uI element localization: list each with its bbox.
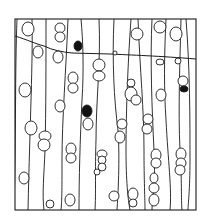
vessel-cell <box>115 131 125 143</box>
vessel-cell <box>22 22 34 36</box>
vessel-cells <box>0 21 188 208</box>
vessel-cell <box>68 83 78 93</box>
vessel-cell <box>178 76 188 86</box>
vessel-cell <box>143 114 153 124</box>
vessel-cell <box>129 199 137 207</box>
vessel-cell <box>25 121 37 135</box>
vessel-cell <box>109 191 119 201</box>
vessel-cell <box>151 158 161 168</box>
vessel-cell <box>156 89 166 101</box>
vessel-cell <box>149 183 159 193</box>
vessel-cell <box>83 118 93 130</box>
cell-wall-line <box>138 19 145 210</box>
vessel-cell <box>127 79 135 87</box>
vessel-cell <box>68 72 78 84</box>
vessel-cell <box>55 100 65 112</box>
vessel-cell <box>149 194 159 206</box>
vessel-cell <box>55 32 65 42</box>
vessel-cell <box>175 58 181 64</box>
filled-vessel-cell <box>74 41 82 51</box>
vessel-cell <box>19 83 31 97</box>
vessel-cell <box>154 21 166 33</box>
vessel-cell <box>142 124 152 134</box>
vessel-cell <box>93 59 105 71</box>
cell-wall-line <box>179 19 182 210</box>
vessel-cell <box>128 188 138 200</box>
vessel-cell <box>46 200 54 208</box>
vessel-cell <box>94 169 100 175</box>
vessel-cell <box>65 194 75 206</box>
vessel-cell <box>93 71 105 81</box>
filled-vessel-cell <box>180 86 188 92</box>
cell-wall-line <box>165 19 171 210</box>
cell-wall-line <box>186 19 190 210</box>
cell-wall-line <box>43 19 46 210</box>
cell-wall-line <box>113 19 119 210</box>
vessel-cell <box>55 23 65 33</box>
vessel-cell <box>38 139 50 151</box>
vessel-cell <box>175 165 185 175</box>
tissue-section-figure <box>0 0 208 224</box>
vessel-cell <box>66 153 76 163</box>
cell-wall-line <box>61 19 68 210</box>
tissue-section-drawing <box>0 0 208 224</box>
figure-frame <box>15 19 196 210</box>
vessel-cell <box>0 100 6 110</box>
vessel-cell <box>156 59 164 65</box>
vessel-cell <box>113 51 117 55</box>
vessel-cell <box>19 172 29 184</box>
vessel-cell <box>117 119 127 129</box>
vessel-cell <box>131 95 141 105</box>
filled-vessel-cell <box>82 105 92 117</box>
vessel-cell <box>131 28 143 40</box>
vessel-cell <box>33 46 43 58</box>
vessel-cell <box>170 27 182 41</box>
vessel-cell <box>150 173 158 183</box>
cell-wall-line <box>95 19 99 210</box>
vessel-cell <box>53 51 63 63</box>
cell-wall-line <box>126 19 131 210</box>
